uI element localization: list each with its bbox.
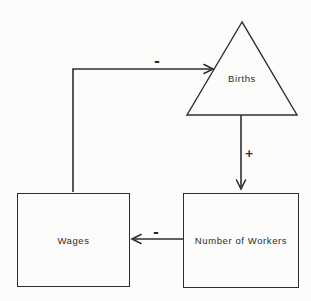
causal-loop-diagram: Births Wages Number of Workers - + -	[0, 0, 311, 301]
workers-node-label: Number of Workers	[195, 235, 287, 246]
edge-sign-births-workers: +	[244, 148, 253, 159]
edge-sign-wages-births: -	[154, 54, 160, 68]
wages-node-label: Wages	[57, 235, 89, 246]
wages-node: Wages	[17, 193, 130, 287]
edge-wages-to-births-line	[73, 69, 211, 192]
edge-sign-workers-wages: -	[153, 225, 159, 239]
births-node-label: Births	[228, 73, 256, 84]
workers-node: Number of Workers	[183, 193, 299, 288]
